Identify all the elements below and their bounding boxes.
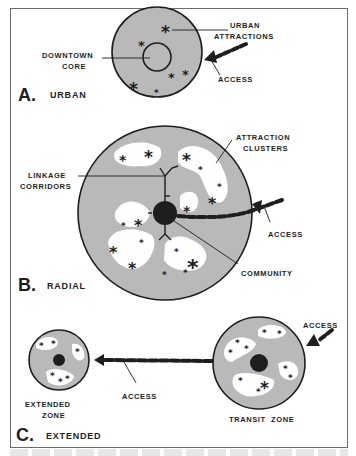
label-zone: ZONE bbox=[42, 411, 65, 420]
transit-hub bbox=[250, 354, 268, 372]
svg-text:*: * bbox=[168, 70, 175, 85]
label-transit-zone: TRANSIT ZONE bbox=[229, 415, 294, 424]
panel-b-letter: B. bbox=[18, 275, 36, 295]
svg-text:*: * bbox=[187, 255, 199, 280]
faint-caption-strip bbox=[10, 449, 348, 456]
label-attractions: ATTRACTIONS bbox=[214, 32, 274, 41]
panel-c-extended: * * * * * * * * * * * * * * * * bbox=[16, 317, 338, 445]
label-access-a: ACCESS bbox=[218, 75, 253, 84]
svg-text:*: * bbox=[228, 348, 233, 358]
extended-hub bbox=[53, 354, 65, 366]
svg-text:*: * bbox=[154, 88, 159, 98]
label-core: CORE bbox=[62, 62, 86, 71]
label-access-c-top: ACCESS bbox=[303, 321, 338, 330]
label-extended: EXTENDED bbox=[25, 400, 71, 409]
svg-text:*: * bbox=[39, 341, 44, 351]
svg-text:*: * bbox=[109, 243, 118, 262]
svg-text:*: * bbox=[65, 374, 70, 384]
svg-text:*: * bbox=[121, 221, 126, 231]
access-arrow-c-top bbox=[306, 330, 332, 346]
access-arrow-c-middle bbox=[94, 354, 212, 383]
svg-text:*: * bbox=[277, 329, 282, 339]
svg-text:*: * bbox=[128, 259, 137, 278]
svg-text:*: * bbox=[182, 67, 189, 82]
panel-c-letter: C. bbox=[16, 425, 34, 445]
svg-text:*: * bbox=[129, 79, 138, 99]
panel-b-title: RADIAL bbox=[47, 281, 86, 291]
svg-text:*: * bbox=[75, 347, 80, 357]
svg-text:*: * bbox=[139, 238, 144, 248]
svg-text:*: * bbox=[262, 328, 267, 338]
svg-text:*: * bbox=[119, 152, 127, 168]
label-community: COMMUNITY bbox=[241, 269, 293, 278]
svg-text:*: * bbox=[238, 376, 243, 386]
panel-b-radial: * * * * * * * * * * * * * * * * bbox=[18, 126, 303, 300]
svg-text:*: * bbox=[138, 38, 145, 53]
panel-c-title: EXTENDED bbox=[46, 431, 101, 441]
svg-text:*: * bbox=[161, 22, 170, 42]
panel-a-urban: * * * * * * URBAN ATTRACTIONS DOWNTOWN C… bbox=[18, 7, 274, 105]
label-linkage: LINKAGE bbox=[28, 171, 66, 180]
urban-zone-circle bbox=[112, 7, 202, 97]
label-urban: URBAN bbox=[230, 21, 260, 30]
tourism-zone-diagram: * * * * * * URBAN ATTRACTIONS DOWNTOWN C… bbox=[0, 0, 356, 456]
panel-a-title: URBAN bbox=[50, 90, 87, 100]
svg-text:*: * bbox=[50, 371, 55, 381]
label-clusters: CLUSTERS bbox=[243, 144, 288, 153]
svg-text:*: * bbox=[244, 344, 249, 354]
label-corridors: CORRIDORS bbox=[20, 182, 71, 191]
svg-text:*: * bbox=[260, 378, 269, 398]
label-access-b: ACCESS bbox=[268, 230, 303, 239]
svg-text:*: * bbox=[288, 373, 293, 383]
community-hub bbox=[153, 201, 177, 225]
svg-text:*: * bbox=[217, 182, 222, 192]
svg-text:*: * bbox=[198, 165, 203, 175]
panel-a-letter: A. bbox=[18, 85, 36, 105]
svg-text:*: * bbox=[134, 216, 143, 235]
svg-text:*: * bbox=[51, 339, 56, 349]
svg-text:*: * bbox=[208, 194, 217, 213]
svg-text:*: * bbox=[144, 147, 153, 167]
label-access-c-middle: ACCESS bbox=[122, 392, 157, 401]
svg-text:*: * bbox=[182, 150, 191, 170]
svg-text:*: * bbox=[162, 270, 167, 280]
label-attraction: ATTRACTION bbox=[236, 133, 290, 142]
svg-text:*: * bbox=[174, 247, 179, 257]
label-downtown: DOWNTOWN bbox=[42, 51, 93, 60]
access-arrow-a bbox=[204, 44, 246, 75]
svg-text:*: * bbox=[235, 338, 240, 348]
svg-text:*: * bbox=[58, 377, 63, 387]
